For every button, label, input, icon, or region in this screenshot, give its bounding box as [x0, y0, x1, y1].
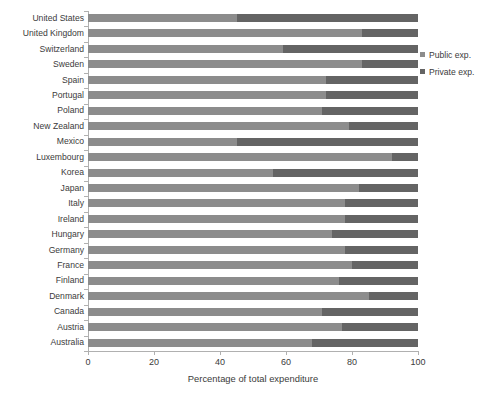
bar-row [88, 166, 418, 181]
bar-segment-public [88, 323, 342, 331]
x-axis-tick-label: 20 [134, 357, 174, 367]
bar-segment-public [88, 122, 349, 130]
bar-row [88, 57, 418, 72]
bar-segment-private [237, 14, 419, 22]
bar-segment-private [326, 76, 418, 84]
bar-row [88, 135, 418, 150]
bar-segment-public [88, 308, 322, 316]
bar-segment-public [88, 261, 352, 269]
stacked-bar-chart: United StatesUnited KingdomSwitzerlandSw… [0, 0, 490, 402]
x-axis-line [88, 351, 419, 352]
bar-row [88, 320, 418, 335]
legend-label-private: Private exp. [429, 67, 474, 77]
bar-segment-public [88, 29, 362, 37]
bar-segment-private [312, 339, 418, 347]
x-axis-tick-label: 0 [68, 357, 108, 367]
bar-row [88, 336, 418, 351]
bar-segment-private [362, 29, 418, 37]
bar-segment-public [88, 246, 345, 254]
x-axis-tick-label: 40 [200, 357, 240, 367]
bar-row [88, 258, 418, 273]
bar-row [88, 150, 418, 165]
x-axis-tick [88, 351, 89, 355]
bar-segment-public [88, 45, 283, 53]
bar-segment-private [322, 308, 418, 316]
bar-segment-private [349, 122, 418, 130]
x-axis-tick-label: 60 [266, 357, 306, 367]
bar-row [88, 243, 418, 258]
bar-row [88, 274, 418, 289]
x-axis-tick [154, 351, 155, 355]
bar-segment-private [345, 215, 418, 223]
bar-segment-private [362, 60, 418, 68]
bar-segment-public [88, 215, 345, 223]
bar-segment-public [88, 76, 326, 84]
bar-row [88, 88, 418, 103]
bar-segment-private [359, 184, 418, 192]
bar-segment-private [345, 246, 418, 254]
bar-segment-public [88, 91, 326, 99]
bar-segment-private [352, 261, 418, 269]
y-axis-ticks [0, 11, 88, 352]
bar-segment-public [88, 14, 237, 22]
bar-segment-private [369, 292, 419, 300]
bar-segment-private [339, 277, 418, 285]
bar-segment-private [237, 138, 419, 146]
legend-swatch-public [420, 52, 425, 57]
bar-row [88, 212, 418, 227]
bar-segment-public [88, 153, 392, 161]
bar-row [88, 227, 418, 242]
bar-row [88, 11, 418, 26]
bar-segment-private [326, 91, 418, 99]
bar-segment-public [88, 184, 359, 192]
x-axis-tick [286, 351, 287, 355]
legend-item-private: Private exp. [420, 63, 490, 80]
x-axis-tick-label: 80 [332, 357, 372, 367]
bar-row [88, 73, 418, 88]
bar-segment-private [342, 323, 418, 331]
plot-area [88, 11, 418, 351]
legend-label-public: Public exp. [429, 50, 471, 60]
x-axis-tick-label: 100 [398, 357, 438, 367]
bar-segment-private [392, 153, 418, 161]
bar-segment-public [88, 292, 369, 300]
bar-segment-private [283, 45, 418, 53]
bar-segment-private [345, 199, 418, 207]
bar-segment-public [88, 60, 362, 68]
bar-segment-public [88, 199, 345, 207]
bar-row [88, 26, 418, 41]
x-axis-tick [352, 351, 353, 355]
bar-segment-private [273, 169, 418, 177]
x-axis-tick [220, 351, 221, 355]
bar-segment-public [88, 169, 273, 177]
bar-segment-public [88, 339, 312, 347]
bar-segment-private [322, 107, 418, 115]
bar-segment-public [88, 277, 339, 285]
bar-row [88, 104, 418, 119]
legend-swatch-private [420, 69, 425, 74]
bar-row [88, 119, 418, 134]
bar-segment-public [88, 107, 322, 115]
legend-item-public: Public exp. [420, 46, 490, 63]
bar-row [88, 181, 418, 196]
chart-legend: Public exp. Private exp. [420, 46, 490, 80]
x-axis-title: Percentage of total expenditure [88, 373, 418, 384]
bar-segment-public [88, 138, 237, 146]
bar-row [88, 42, 418, 57]
x-axis-tick [418, 351, 419, 355]
bar-row [88, 289, 418, 304]
bar-row [88, 305, 418, 320]
bar-segment-private [332, 230, 418, 238]
bar-row [88, 196, 418, 211]
bar-segment-public [88, 230, 332, 238]
